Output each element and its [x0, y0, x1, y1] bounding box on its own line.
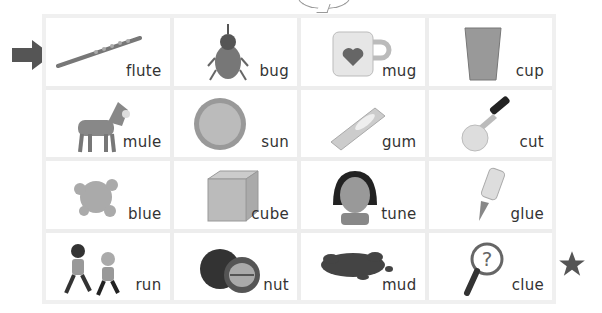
word-card-glue[interactable]: glue: [429, 161, 553, 229]
beetle-icon: [184, 24, 272, 82]
knife-cut-icon: [439, 96, 527, 154]
word-label: flute: [126, 62, 162, 80]
word-card-cup[interactable]: cup: [429, 18, 553, 86]
word-label: tune: [381, 205, 416, 223]
word-label: run: [135, 276, 161, 294]
word-label: bug: [260, 62, 289, 80]
word-label: sun: [261, 133, 289, 151]
word-card-grid: flute bug mug cup mule sun gum cut blue …: [42, 14, 556, 304]
word-label: clue: [512, 276, 544, 294]
word-card-cut[interactable]: cut: [429, 90, 553, 158]
word-card-tune[interactable]: tune: [301, 161, 425, 229]
cup-icon: [439, 24, 527, 82]
star-icon: [558, 250, 586, 278]
word-label: blue: [128, 205, 162, 223]
word-label: mule: [123, 133, 162, 151]
word-label: mud: [382, 276, 417, 294]
word-card-clue[interactable]: ? clue: [429, 233, 553, 301]
word-label: cube: [251, 205, 289, 223]
word-card-mug[interactable]: mug: [301, 18, 425, 86]
word-label: glue: [510, 205, 544, 223]
word-label: nut: [263, 276, 289, 294]
word-card-blue[interactable]: blue: [46, 161, 170, 229]
word-card-sun[interactable]: sun: [174, 90, 298, 158]
svg-text:?: ?: [481, 247, 492, 271]
word-label: mug: [382, 62, 417, 80]
word-card-flute[interactable]: flute: [46, 18, 170, 86]
word-card-run[interactable]: run: [46, 233, 170, 301]
walnut-icon: [184, 239, 272, 297]
word-card-mud[interactable]: mud: [301, 233, 425, 301]
word-label: cup: [516, 62, 544, 80]
speech-bubble-tail: [316, 4, 330, 13]
word-card-cube[interactable]: cube: [174, 161, 298, 229]
word-label: cut: [519, 133, 544, 151]
kids-running-icon: [56, 239, 144, 297]
word-card-gum[interactable]: gum: [301, 90, 425, 158]
sun-icon: [184, 96, 272, 154]
word-card-mule[interactable]: mule: [46, 90, 170, 158]
word-card-bug[interactable]: bug: [174, 18, 298, 86]
word-label: gum: [382, 133, 417, 151]
word-card-nut[interactable]: nut: [174, 233, 298, 301]
